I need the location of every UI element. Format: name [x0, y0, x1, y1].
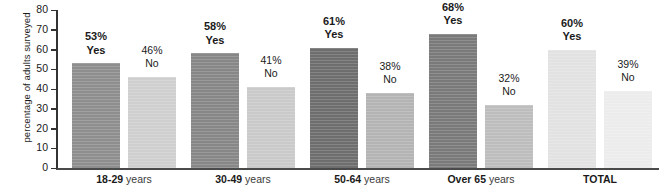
value-label-over-65-no: 32%No	[475, 72, 543, 98]
bar-18-29-yes	[72, 63, 120, 168]
y-tick-mark	[51, 89, 57, 91]
y-tick-label: 50	[8, 63, 48, 74]
value-answer: No	[356, 73, 424, 86]
y-tick-mark	[51, 168, 57, 170]
category-label-main: 18-29	[96, 173, 123, 185]
bar-chart: percentage of adults surveyed 8070605040…	[0, 0, 659, 193]
bar-50-64-yes	[310, 48, 358, 168]
y-tick-label: 70	[8, 24, 48, 35]
y-tick-mark	[51, 10, 57, 12]
value-label-50-64-no: 38%No	[356, 60, 424, 86]
category-label-sub: years	[361, 173, 390, 185]
value-percent: 61%	[300, 15, 368, 29]
y-tick-label: 10	[8, 142, 48, 153]
category-label-main: 50-64	[334, 173, 361, 185]
value-percent: 46%	[118, 44, 186, 57]
bar-30-49-no	[247, 87, 295, 168]
y-tick-label: 60	[8, 44, 48, 55]
value-answer: Yes	[181, 34, 249, 48]
y-tick-label: 80	[8, 4, 48, 15]
bar-18-29-no	[128, 77, 176, 168]
value-label-over-65-yes: 68%Yes	[419, 1, 487, 29]
category-label-main: 30-49	[215, 173, 242, 185]
value-answer: No	[594, 71, 659, 84]
value-percent: 53%	[62, 30, 130, 44]
value-label-30-49-yes: 58%Yes	[181, 20, 249, 48]
category-label-total: TOTAL	[530, 173, 659, 185]
category-label-sub: years	[486, 173, 515, 185]
category-label-main: TOTAL	[583, 173, 617, 185]
bar-over-65-yes	[429, 34, 477, 168]
bar-over-65-no	[485, 105, 533, 168]
value-label-30-49-no: 41%No	[237, 54, 305, 80]
y-tick-mark	[51, 108, 57, 110]
value-answer: Yes	[300, 28, 368, 42]
y-tick-mark	[51, 69, 57, 71]
y-tick-mark	[51, 128, 57, 130]
value-percent: 60%	[538, 17, 606, 31]
y-tick-mark	[51, 29, 57, 31]
category-label-main: Over 65	[447, 173, 486, 185]
value-answer: No	[237, 67, 305, 80]
value-percent: 41%	[237, 54, 305, 67]
value-label-total-no: 39%No	[594, 58, 659, 84]
bar-30-49-yes	[191, 53, 239, 168]
value-answer: No	[118, 57, 186, 70]
value-percent: 32%	[475, 72, 543, 85]
y-tick-label: 20	[8, 123, 48, 134]
value-answer: Yes	[419, 14, 487, 28]
y-tick-label: 40	[8, 83, 48, 94]
y-tick-label: 30	[8, 103, 48, 114]
value-label-18-29-no: 46%No	[118, 44, 186, 70]
value-answer: Yes	[538, 30, 606, 44]
bar-total-yes	[548, 50, 596, 169]
category-label-sub: years	[123, 173, 152, 185]
y-tick-label: 0	[8, 162, 48, 173]
bar-total-no	[604, 91, 652, 168]
value-percent: 39%	[594, 58, 659, 71]
category-label-sub: years	[242, 173, 271, 185]
value-answer: No	[475, 85, 543, 98]
value-label-total-yes: 60%Yes	[538, 17, 606, 45]
value-percent: 38%	[356, 60, 424, 73]
y-tick-mark	[51, 49, 57, 51]
y-tick-mark	[51, 148, 57, 150]
bar-50-64-no	[366, 93, 414, 168]
value-label-50-64-yes: 61%Yes	[300, 15, 368, 43]
value-percent: 58%	[181, 20, 249, 34]
x-axis-line	[56, 168, 659, 170]
value-percent: 68%	[419, 1, 487, 15]
